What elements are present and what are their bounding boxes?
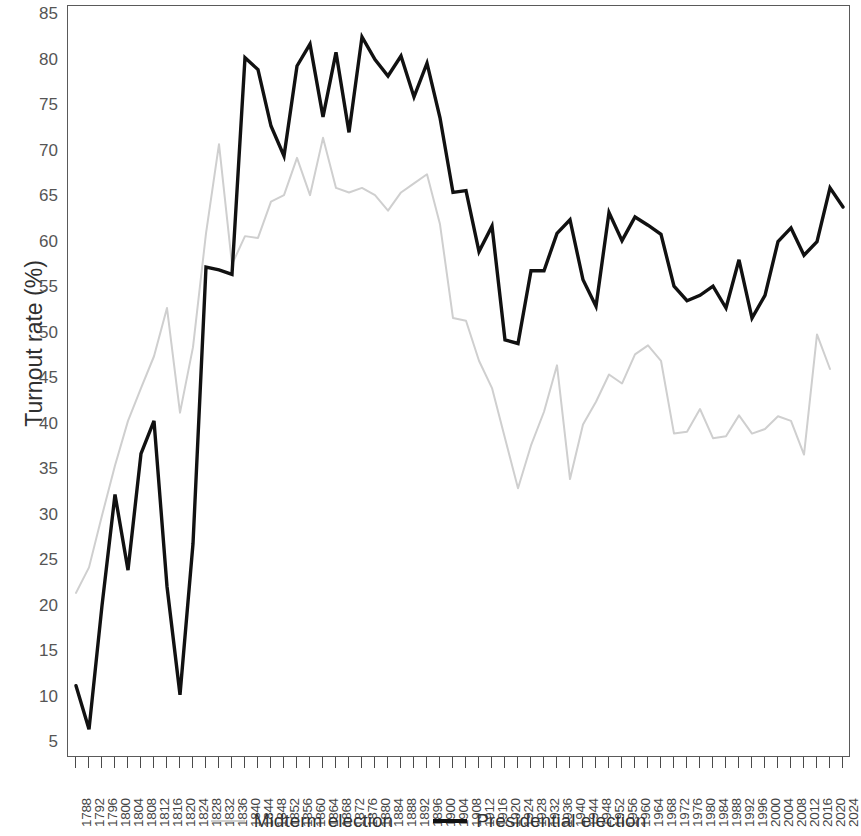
- x-axis-tick: [153, 757, 154, 768]
- y-axis-tick-label: 5: [24, 733, 58, 750]
- x-axis-tick: [296, 757, 297, 768]
- chart-legend: Midterm election Presidential election: [0, 806, 857, 836]
- x-axis-tick: [218, 757, 219, 768]
- x-axis-tick: [751, 757, 752, 768]
- y-axis-tick-label: 10: [24, 688, 58, 705]
- x-axis-tick: [374, 757, 375, 768]
- x-axis-tick: [335, 757, 336, 768]
- x-axis-tick: [75, 757, 76, 768]
- legend-label-presidential: Presidential election: [476, 810, 646, 832]
- x-axis-tick: [530, 757, 531, 768]
- x-axis-tick: [608, 757, 609, 768]
- x-axis-tick: [387, 757, 388, 768]
- x-axis-tick: [270, 757, 271, 768]
- x-axis-tick: [738, 757, 739, 768]
- legend-item-midterm: Midterm election: [211, 810, 393, 832]
- x-axis-tick: [790, 757, 791, 768]
- y-axis-tick-label: 45: [24, 369, 58, 386]
- legend-item-presidential: Presidential election: [433, 810, 646, 832]
- x-axis-tick: [725, 757, 726, 768]
- x-axis-tick: [348, 757, 349, 768]
- x-axis-tick: [205, 757, 206, 768]
- x-axis-tick: [504, 757, 505, 768]
- plot-area: [67, 5, 850, 757]
- y-axis-tick-label: 55: [24, 278, 58, 295]
- y-axis-tick-label: 70: [24, 142, 58, 159]
- x-axis-tick: [179, 757, 180, 768]
- x-axis-tick: [166, 757, 167, 768]
- y-axis-tick-label: 25: [24, 551, 58, 568]
- x-axis-tick: [101, 757, 102, 768]
- x-axis-tick: [309, 757, 310, 768]
- x-axis-tick: [569, 757, 570, 768]
- x-axis-tick: [478, 757, 479, 768]
- x-axis-tick: [582, 757, 583, 768]
- x-axis-tick: [816, 757, 817, 768]
- x-axis-tick: [257, 757, 258, 768]
- x-axis-tick: [452, 757, 453, 768]
- presidential-election-line: [76, 37, 843, 730]
- x-axis-tick: [192, 757, 193, 768]
- x-axis-tick: [231, 757, 232, 768]
- x-axis-tick: [283, 757, 284, 768]
- x-axis-tick: [361, 757, 362, 768]
- x-axis-tick: [803, 757, 804, 768]
- x-axis-tick: [426, 757, 427, 768]
- x-axis-tick: [114, 757, 115, 768]
- x-axis-tick: [491, 757, 492, 768]
- y-axis-tick-label: 60: [24, 233, 58, 250]
- x-axis-tick: [413, 757, 414, 768]
- x-axis-tick: [634, 757, 635, 768]
- y-axis-tick-label: 15: [24, 642, 58, 659]
- x-axis-tick: [517, 757, 518, 768]
- y-axis-tick-label: 80: [24, 51, 58, 68]
- x-axis-tick: [777, 757, 778, 768]
- y-axis-tick-label: 20: [24, 597, 58, 614]
- x-axis-tick: [660, 757, 661, 768]
- x-axis-tick: [556, 757, 557, 768]
- x-axis-tick: [842, 757, 843, 768]
- x-axis-tick: [140, 757, 141, 768]
- x-axis-tick: [543, 757, 544, 768]
- y-axis-tick-label: 50: [24, 324, 58, 341]
- legend-label-midterm: Midterm election: [254, 810, 393, 832]
- x-axis-tick: [764, 757, 765, 768]
- x-axis-ticks: [67, 757, 850, 769]
- x-axis-tick: [88, 757, 89, 768]
- midterm-election-line: [76, 138, 830, 593]
- x-axis-tick: [465, 757, 466, 768]
- y-axis-tick-label: 30: [24, 506, 58, 523]
- x-axis-tick: [686, 757, 687, 768]
- midterm-line-swatch: [211, 820, 245, 822]
- y-axis-tick-labels: 858075706560555045403530252015105: [22, 0, 58, 757]
- x-axis-tick: [647, 757, 648, 768]
- x-axis-tick: [712, 757, 713, 768]
- y-axis-tick-label: 75: [24, 96, 58, 113]
- x-axis-tick: [322, 757, 323, 768]
- y-axis-tick-label: 65: [24, 187, 58, 204]
- y-axis-tick-label: 40: [24, 415, 58, 432]
- x-axis-tick: [829, 757, 830, 768]
- x-axis-tick: [127, 757, 128, 768]
- x-axis-tick: [400, 757, 401, 768]
- x-axis-tick: [621, 757, 622, 768]
- x-axis-tick: [244, 757, 245, 768]
- x-axis-tick: [673, 757, 674, 768]
- y-axis-tick-label: 85: [24, 5, 58, 22]
- x-axis-tick: [699, 757, 700, 768]
- y-axis-tick-label: 35: [24, 460, 58, 477]
- presidential-line-swatch: [433, 819, 467, 823]
- x-axis-tick: [439, 757, 440, 768]
- x-axis-tick: [595, 757, 596, 768]
- plot-lines-svg: [68, 6, 851, 758]
